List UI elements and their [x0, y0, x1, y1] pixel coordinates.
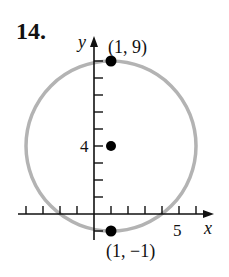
graph: y x 5 4 (1, 9) (1, −1): [0, 0, 229, 277]
point-top: [106, 56, 117, 67]
x-axis-arrow-icon: [203, 210, 214, 218]
point-bottom: [106, 226, 117, 237]
y-ticks: [94, 61, 103, 231]
y-axis: [90, 36, 103, 240]
y-axis-label: y: [76, 32, 86, 52]
point-top-label: (1, 9): [108, 37, 147, 58]
x-tick-label-5: 5: [173, 221, 182, 240]
y-tick-label-4: 4: [80, 137, 89, 156]
x-axis-label: x: [203, 218, 212, 238]
x-axis: [18, 206, 214, 218]
y-axis-arrow-icon: [90, 36, 98, 47]
point-center: [106, 141, 116, 151]
point-bottom-label: (1, −1): [106, 241, 155, 262]
